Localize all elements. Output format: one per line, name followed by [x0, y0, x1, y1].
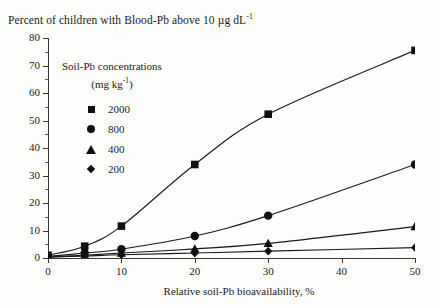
- legend-row-400: 400: [84, 139, 162, 159]
- data-point-2000-x5: [81, 242, 89, 250]
- legend-label-200: 200: [108, 163, 125, 175]
- series-line-200: [48, 248, 415, 258]
- data-point-200-x50: [411, 243, 415, 252]
- y-tick-label-60: 60: [0, 87, 40, 98]
- x-tick-30: [268, 258, 269, 263]
- legend-label-400: 400: [108, 143, 125, 155]
- x-tick-0: [48, 258, 49, 263]
- legend-items: 2000800400200: [84, 99, 162, 179]
- data-point-2000-x20: [191, 161, 199, 169]
- data-point-2000-x30: [264, 110, 272, 118]
- data-point-800-x20: [191, 232, 199, 240]
- y-tick-label-10: 10: [0, 225, 40, 236]
- triangle-icon: [86, 145, 96, 154]
- legend-marker-square-icon: [84, 106, 98, 113]
- circle-icon: [87, 125, 95, 133]
- legend-row-200: 200: [84, 159, 162, 179]
- legend-row-2000: 2000: [84, 99, 162, 119]
- chart-figure: Percent of children with Blood-Pb above …: [0, 0, 434, 306]
- x-tick-label-20: 20: [175, 266, 215, 277]
- y-tick-label-0: 0: [0, 252, 40, 263]
- data-point-800-x50: [411, 160, 415, 168]
- chart-title-superscript: -1: [246, 12, 253, 21]
- x-tick-label-10: 10: [101, 266, 141, 277]
- data-point-800-x30: [264, 211, 272, 219]
- y-tick-label-20: 20: [0, 197, 40, 208]
- x-tick-40: [342, 258, 343, 263]
- x-axis-label-text: Relative soil-Pb bioavailability, %: [164, 285, 315, 297]
- legend-marker-circle-icon: [84, 125, 98, 133]
- y-tick-label-30: 30: [0, 170, 40, 181]
- x-tick-label-40: 40: [322, 266, 362, 277]
- legend-title-units: (mg kg: [91, 78, 122, 90]
- x-tick-label-0: 0: [28, 266, 68, 277]
- x-axis-line: [48, 258, 416, 259]
- x-tick-20: [195, 258, 196, 263]
- chart-title: Percent of children with Blood-Pb above …: [8, 14, 253, 26]
- legend-label-800: 800: [108, 123, 125, 135]
- y-tick-label-80: 80: [0, 32, 40, 43]
- legend-row-800: 800: [84, 119, 162, 139]
- x-tick-10: [121, 258, 122, 263]
- data-point-2000-x10: [118, 222, 126, 230]
- square-icon: [88, 106, 95, 113]
- legend-marker-diamond-icon: [84, 166, 98, 172]
- data-point-200-x30: [264, 247, 272, 256]
- chart-title-text: Percent of children with Blood-Pb above …: [8, 14, 246, 26]
- legend-title-paren: ): [129, 78, 133, 90]
- diamond-icon: [87, 165, 95, 173]
- x-tick-label-50: 50: [395, 266, 434, 277]
- legend-title-line-2: (mg kg-1): [62, 78, 162, 90]
- data-point-2000-x50: [411, 47, 415, 55]
- legend-label-2000: 2000: [108, 103, 130, 115]
- x-tick-50: [415, 258, 416, 263]
- x-tick-label-30: 30: [248, 266, 288, 277]
- data-point-400-x50: [410, 222, 415, 230]
- chart-legend: Soil-Pb concentrations (mg kg-1) 2000800…: [62, 60, 162, 179]
- legend-title-line-1: Soil-Pb concentrations: [62, 60, 162, 72]
- y-tick-label-40: 40: [0, 142, 40, 153]
- y-tick-label-70: 70: [0, 60, 40, 71]
- legend-marker-triangle-icon: [84, 145, 98, 154]
- x-axis-label: Relative soil-Pb bioavailability, %: [0, 285, 434, 297]
- y-tick-label-50: 50: [0, 115, 40, 126]
